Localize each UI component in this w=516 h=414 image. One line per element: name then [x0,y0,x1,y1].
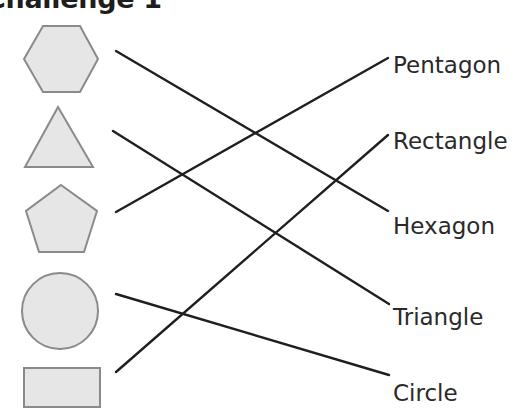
triangle-shape [25,107,93,167]
label-hexagon: Hexagon [393,213,495,239]
line-rectangle-to-rectangle [116,135,388,372]
label-rectangle: Rectangle [393,128,508,154]
line-pentagon-to-pentagon [116,58,388,212]
pentagon-shape [26,185,97,252]
circle-shape [22,273,98,349]
line-circle-to-circle [116,294,389,375]
rectangle-shape [24,368,100,407]
label-pentagon: Pentagon [393,52,501,78]
label-circle: Circle [393,380,458,406]
hexagon-shape [24,26,98,92]
line-triangle-to-triangle [113,131,389,304]
label-triangle: Triangle [393,304,483,330]
line-hexagon-to-hexagon [116,51,388,211]
